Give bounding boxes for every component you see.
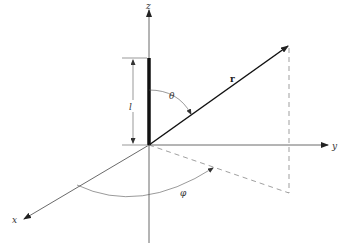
x-axis	[24, 145, 149, 219]
phi-label: φ	[180, 188, 187, 198]
spherical-coordinates-diagram: z y x r θ φ l	[0, 0, 343, 249]
z-axis-label: z	[145, 1, 151, 11]
x-axis-label: x	[12, 215, 17, 225]
phi-arc	[77, 168, 213, 197]
theta-label: θ	[169, 91, 175, 101]
projection-xy-dashed	[149, 145, 289, 193]
y-axis-label: y	[331, 141, 338, 151]
r-label: r	[230, 74, 235, 84]
length-label: l	[129, 102, 132, 112]
